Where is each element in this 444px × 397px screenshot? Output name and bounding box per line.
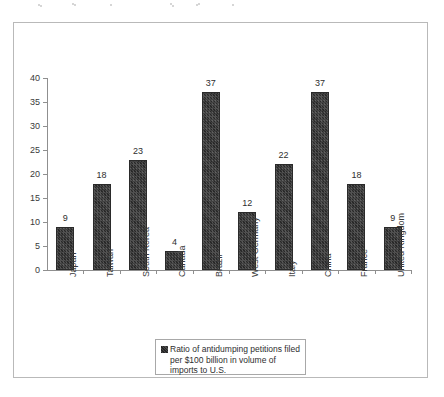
y-axis-tick-label: 15 bbox=[10, 194, 40, 203]
x-axis-tick bbox=[193, 270, 194, 274]
x-axis-category-label: United Kingdom bbox=[397, 213, 406, 277]
x-axis-category-label: Italy bbox=[288, 260, 297, 277]
y-axis-tick-label: 35 bbox=[10, 98, 40, 107]
bar bbox=[202, 92, 220, 270]
x-axis-tick bbox=[338, 270, 339, 274]
bar-value-label: 4 bbox=[154, 238, 194, 247]
y-axis-tick bbox=[43, 150, 48, 151]
bar-value-label: 18 bbox=[336, 171, 376, 180]
y-axis-tick bbox=[43, 126, 48, 127]
y-axis-tick-label-text: 35 bbox=[10, 98, 40, 107]
y-axis-tick bbox=[43, 270, 48, 271]
y-axis-tick-label: 0 bbox=[10, 266, 40, 275]
x-axis-category-label: Taiwan bbox=[106, 249, 115, 277]
bar-value-label: 37 bbox=[191, 79, 231, 88]
x-axis-category-label: France bbox=[360, 249, 369, 277]
bar-value-label: 23 bbox=[118, 147, 158, 156]
x-axis-category-label: China bbox=[324, 253, 333, 277]
y-axis-tick-label: 25 bbox=[10, 146, 40, 155]
bar-value-label: 18 bbox=[82, 171, 122, 180]
y-axis-tick-label-text: 30 bbox=[10, 122, 40, 131]
y-axis-tick bbox=[43, 174, 48, 175]
x-axis-tick bbox=[265, 270, 266, 274]
x-axis-category-label: West Germany bbox=[251, 217, 260, 277]
y-axis-tick-label: 30 bbox=[10, 122, 40, 131]
y-axis-tick-label-text: 25 bbox=[10, 146, 40, 155]
x-axis-tick bbox=[120, 270, 121, 274]
bar-value-label: 9 bbox=[45, 214, 85, 223]
y-axis-tick-label: 40 bbox=[10, 74, 40, 83]
x-axis-category-label: Japan bbox=[69, 252, 78, 277]
y-axis-tick-label-text: 5 bbox=[10, 242, 40, 251]
y-axis-tick bbox=[43, 102, 48, 103]
bar-value-label: 22 bbox=[264, 151, 304, 160]
bar-value-label: 9 bbox=[373, 214, 413, 223]
y-axis-tick-label-text: 0 bbox=[10, 266, 40, 275]
x-axis-tick bbox=[156, 270, 157, 274]
y-axis-tick bbox=[43, 198, 48, 199]
x-axis-tick bbox=[411, 270, 412, 274]
y-axis-tick-label-text: 40 bbox=[10, 74, 40, 83]
y-axis-tick bbox=[43, 246, 48, 247]
x-axis-tick bbox=[375, 270, 376, 274]
x-axis-category-label: South Korea bbox=[142, 227, 151, 277]
x-axis-category-label: Canada bbox=[178, 245, 187, 277]
x-axis-category-label: Brazil bbox=[215, 254, 224, 277]
y-axis-tick-label: 10 bbox=[10, 218, 40, 227]
chart-legend: Ratio of antidumping petitions filed per… bbox=[155, 339, 306, 375]
x-axis-tick bbox=[83, 270, 84, 274]
y-axis-tick-label: 5 bbox=[10, 242, 40, 251]
x-axis-tick bbox=[302, 270, 303, 274]
bar-value-label: 12 bbox=[227, 199, 267, 208]
legend-color-swatch bbox=[161, 346, 168, 353]
y-axis-tick-label-text: 20 bbox=[10, 170, 40, 179]
bar bbox=[311, 92, 329, 270]
y-axis-tick-label-text: 15 bbox=[10, 194, 40, 203]
legend-label: Ratio of antidumping petitions filed per… bbox=[170, 344, 302, 376]
bar-value-label: 37 bbox=[300, 79, 340, 88]
y-axis-tick-label: 20 bbox=[10, 170, 40, 179]
y-axis-tick bbox=[43, 78, 48, 79]
bar-chart: 05101520253035409Japan18Taiwan23South Ko… bbox=[0, 0, 444, 397]
x-axis-tick bbox=[229, 270, 230, 274]
y-axis-tick-label-text: 10 bbox=[10, 218, 40, 227]
bar bbox=[275, 164, 293, 270]
